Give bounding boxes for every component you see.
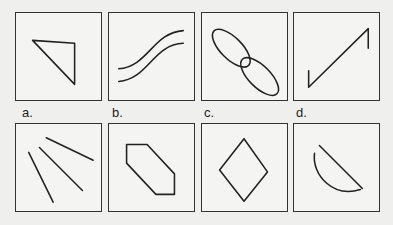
triangle-icon xyxy=(16,13,101,100)
option-label-b: b. xyxy=(112,106,123,119)
option-a-diverging-lines[interactable] xyxy=(15,123,102,212)
zigzag-icon xyxy=(294,13,379,100)
top-panel-3-ellipses xyxy=(201,12,288,101)
option-label-c: c. xyxy=(204,106,214,119)
option-label-d: d. xyxy=(296,106,307,119)
option-c-rhombus[interactable] xyxy=(201,123,288,212)
option-b-hexagon[interactable] xyxy=(108,123,195,212)
option-d-semicircle[interactable] xyxy=(293,123,380,212)
semicircle-icon xyxy=(294,124,379,211)
top-panel-2-curves xyxy=(108,12,195,101)
s-curves-icon xyxy=(109,13,194,100)
option-label-a: a. xyxy=(22,106,33,119)
rhombus-icon xyxy=(202,124,287,211)
top-panel-4-zigzag xyxy=(293,12,380,101)
hexagon-icon xyxy=(109,124,194,211)
diverging-lines-icon xyxy=(16,124,101,211)
ellipses-icon xyxy=(202,13,287,100)
top-panel-1-triangle xyxy=(15,12,102,101)
